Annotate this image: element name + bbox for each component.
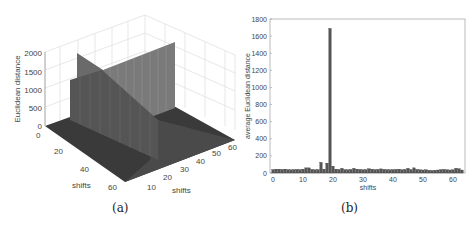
bar [416, 169, 418, 173]
bar [338, 169, 340, 173]
x-tick: 10 [147, 183, 156, 192]
x-tick: 30 [180, 165, 189, 174]
bar [350, 169, 352, 173]
bar [347, 170, 349, 173]
bar [320, 162, 322, 173]
bar [446, 170, 448, 173]
x-axis-label: shifts [172, 186, 191, 195]
z-tick: 0 [38, 122, 43, 131]
x-tick: 50 [212, 149, 221, 158]
bar [380, 169, 382, 173]
x-tick: 60 [228, 143, 237, 152]
bars [272, 28, 463, 173]
bar [344, 170, 346, 173]
bar-chart: 020040060080010001200140016001800 010203… [240, 0, 475, 228]
bar [311, 169, 313, 173]
bar [413, 168, 415, 173]
bar [356, 169, 358, 173]
bar [395, 169, 397, 173]
bar [371, 169, 373, 173]
y-tick: 20 [54, 147, 63, 156]
plot-frame [270, 19, 465, 173]
panel-a-3d-surface: 2000 1500 1000 500 0 Euclidean distance … [0, 0, 240, 228]
x-tick: 40 [389, 176, 397, 183]
y-tick: 40 [80, 165, 89, 174]
panel-b-bar-chart: 020040060080010001200140016001800 010203… [240, 0, 475, 228]
bar [314, 170, 316, 173]
bar [323, 169, 325, 173]
x-tick: 20 [163, 173, 172, 182]
z-tick: 1500 [24, 68, 42, 77]
surface-plot: 2000 1500 1000 500 0 Euclidean distance … [0, 0, 240, 228]
bar [353, 168, 355, 173]
y-axis-label: shifts [72, 181, 91, 190]
bar [452, 170, 454, 173]
z-tick: 1000 [24, 86, 42, 95]
bar [293, 170, 295, 173]
bar [425, 170, 427, 173]
bar [407, 168, 409, 173]
x-tick: 20 [329, 176, 337, 183]
y-tick: 0 [263, 170, 267, 177]
z-tick: 500 [29, 104, 43, 113]
caption-a: (a) [112, 201, 129, 215]
bar [296, 169, 298, 173]
bar [302, 169, 304, 173]
bar [440, 170, 442, 173]
y-axis-label: average Euclidean distance [244, 53, 252, 139]
y-tick: 1400 [251, 50, 267, 57]
y-tick: 0 [36, 131, 41, 140]
bar [443, 169, 445, 173]
bar [284, 169, 286, 173]
bar [308, 168, 310, 173]
z-tick: 2000 [24, 49, 42, 58]
bar [287, 170, 289, 173]
bar [332, 166, 334, 173]
bar [281, 169, 283, 173]
y-tick: 400 [255, 135, 267, 142]
bar [389, 170, 391, 173]
bar [437, 170, 439, 173]
x-axis-label: shifts [360, 184, 377, 191]
bar [410, 170, 412, 173]
y-tick: 1600 [251, 33, 267, 40]
bar [455, 168, 457, 173]
bar [305, 168, 307, 173]
bar [458, 169, 460, 173]
y-tick: 800 [255, 101, 267, 108]
bar [401, 170, 403, 173]
y-tick: 200 [255, 152, 267, 159]
bar [362, 170, 364, 173]
bar [404, 169, 406, 173]
z-axis-label: Euclidean distance [13, 55, 22, 123]
bar [326, 163, 328, 173]
bar [359, 169, 361, 173]
bar [431, 170, 433, 173]
bar [341, 168, 343, 173]
caption-b: (b) [341, 201, 358, 215]
bar [461, 170, 463, 173]
y-tick: 60 [108, 183, 117, 192]
bar [335, 169, 337, 173]
bar [272, 170, 274, 173]
bar [290, 170, 292, 173]
bar [428, 170, 430, 173]
x-tick: 30 [359, 176, 367, 183]
x-tick: 10 [299, 176, 307, 183]
bar [329, 28, 331, 173]
x-tick: 50 [419, 176, 427, 183]
bar [383, 169, 385, 173]
bar [392, 170, 394, 173]
bar [419, 170, 421, 173]
bar [377, 169, 379, 173]
bar [365, 170, 367, 173]
y-tick: 600 [255, 118, 267, 125]
bar [374, 170, 376, 173]
bar [434, 170, 436, 173]
bar [275, 169, 277, 173]
bar [449, 170, 451, 173]
y-tick: 1800 [251, 16, 267, 23]
bar [398, 169, 400, 173]
x-tick: 60 [449, 176, 457, 183]
y-tick: 1000 [251, 84, 267, 91]
